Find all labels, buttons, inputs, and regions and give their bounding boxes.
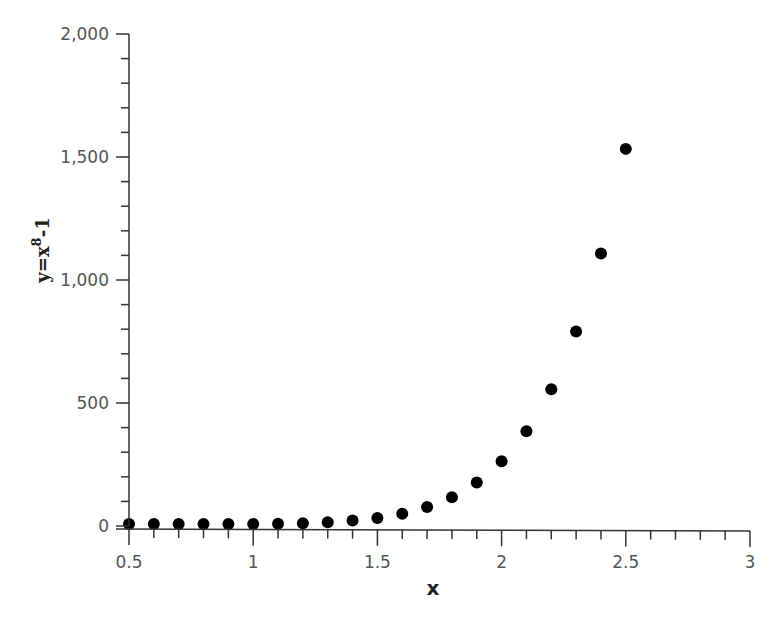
x-tick-label: 1.5 bbox=[364, 552, 391, 572]
scatter-chart: 05001,0001,5002,000 0.511.522.53 x y=x8-… bbox=[0, 0, 781, 620]
y-title-tail: -1 bbox=[32, 217, 53, 237]
data-point bbox=[371, 512, 383, 524]
y-title-base: y=x bbox=[32, 246, 53, 284]
data-point bbox=[297, 517, 309, 529]
data-point bbox=[396, 508, 408, 520]
data-point bbox=[198, 518, 210, 530]
x-axis-line bbox=[116, 529, 750, 531]
x-axis: 0.511.522.53 bbox=[115, 529, 755, 572]
y-axis-title: y=x8-1 bbox=[29, 217, 53, 283]
y-tick-label: 2,000 bbox=[60, 24, 109, 44]
y-axis: 05001,0001,5002,000 bbox=[60, 24, 129, 536]
data-point bbox=[595, 248, 607, 260]
x-tick-label: 0.5 bbox=[115, 552, 142, 572]
x-tick-label: 3 bbox=[745, 552, 756, 572]
y-tick-label: 500 bbox=[77, 393, 109, 413]
y-tick-label: 1,500 bbox=[60, 147, 109, 167]
data-point bbox=[222, 518, 234, 530]
data-point bbox=[570, 326, 582, 338]
plot-area bbox=[123, 143, 632, 530]
x-tick-label: 1 bbox=[248, 552, 259, 572]
data-point bbox=[545, 383, 557, 395]
x-tick-label: 2 bbox=[496, 552, 507, 572]
data-point bbox=[471, 476, 483, 488]
data-point bbox=[620, 143, 632, 155]
data-point bbox=[247, 518, 259, 530]
y-title-exponent: 8 bbox=[29, 237, 44, 246]
data-point bbox=[173, 518, 185, 530]
data-point bbox=[446, 491, 458, 503]
y-tick-label: 1,000 bbox=[60, 270, 109, 290]
data-point bbox=[322, 516, 334, 528]
x-tick-label: 2.5 bbox=[612, 552, 639, 572]
data-point bbox=[272, 518, 284, 530]
data-point bbox=[421, 501, 433, 513]
data-point bbox=[347, 515, 359, 527]
x-axis-title: x bbox=[427, 576, 440, 600]
data-point bbox=[520, 425, 532, 437]
data-point bbox=[496, 455, 508, 467]
y-tick-label: 0 bbox=[98, 516, 109, 536]
data-point bbox=[148, 518, 160, 530]
